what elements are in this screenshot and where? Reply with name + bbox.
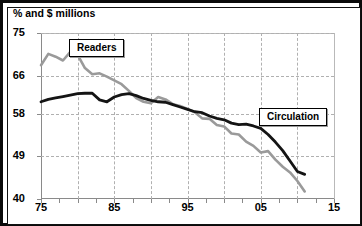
callout-circulation: Circulation xyxy=(259,108,327,126)
chart-frame: % and $ millions 4049586675 7585950515 R… xyxy=(0,0,362,226)
line-circulation xyxy=(41,93,305,174)
callout-readers: Readers xyxy=(69,39,124,57)
